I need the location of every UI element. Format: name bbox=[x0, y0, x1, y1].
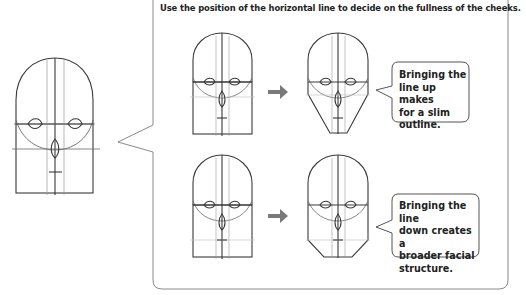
note-line: for a slim bbox=[399, 107, 469, 120]
caption-text: Use the position of the horizontal line … bbox=[160, 3, 505, 13]
face-top-after-slim bbox=[306, 33, 370, 134]
note-line: structure. bbox=[399, 263, 479, 276]
face-bottom-before bbox=[190, 155, 255, 259]
face-top-before bbox=[190, 33, 255, 136]
note-text-slim: Bringing the line up makes for a slim ou… bbox=[399, 69, 469, 132]
note-line: broader facial bbox=[399, 250, 479, 263]
note-line: Bringing the line bbox=[399, 200, 479, 225]
note-line: line up makes bbox=[399, 82, 469, 107]
note-line: Bringing the bbox=[399, 69, 469, 82]
arrow-top-icon bbox=[268, 85, 288, 99]
note-line: outline. bbox=[399, 119, 469, 132]
reference-face bbox=[12, 58, 100, 195]
note-line: down creates a bbox=[399, 225, 479, 250]
note-text-broad: Bringing the line down creates a broader… bbox=[399, 200, 479, 275]
face-bottom-after-broad bbox=[306, 155, 370, 258]
arrow-bottom-icon bbox=[268, 209, 288, 223]
